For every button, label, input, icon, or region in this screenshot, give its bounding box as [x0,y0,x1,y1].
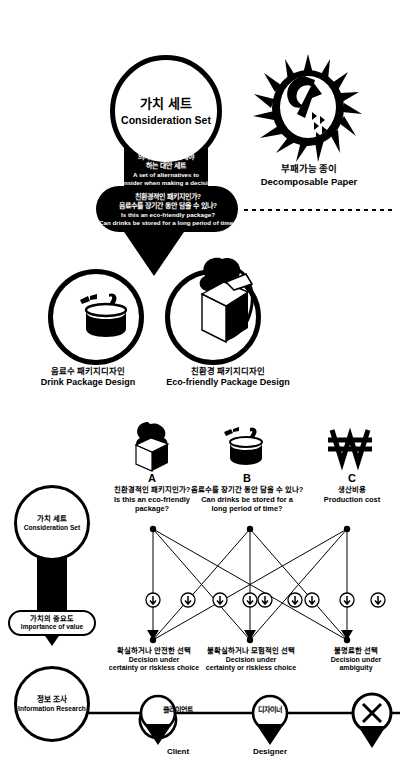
end-x-pin [353,694,391,748]
consideration-set-kr: 가치 세트 [140,96,192,112]
option-c-en-line1: Production cost [306,495,398,504]
outcome-2-en-line2: certainty or riskless choice [192,664,310,673]
information-research-kr: 정보 조사 [37,695,67,705]
option-b-en-line2: long period of time? [186,504,308,513]
option-b-drink-can-icon [222,424,270,468]
outcome-2-en-line1: Decision under [192,656,310,665]
information-research-en: Information Research [18,705,86,714]
sunburst-paper-icon [252,52,364,164]
client-pin-kr: 클라이언트 [140,704,216,714]
designer-label: Designer [232,747,308,756]
question-en-line1: Is this an eco-friendly package? [90,211,246,219]
lower-consideration-set-circle: 가치 세트 Consideration Set [14,485,90,561]
alternatives-kr-line1: 의사결정시 고려해야 [100,152,232,161]
eco-package-kr: 친환경 패키지디자인 [148,366,308,377]
option-a-tree-in-box-icon [128,420,176,472]
alternatives-en-line1: A set of alternatives to [100,171,232,179]
outcome-3-kr: 불명료한 선택 [308,646,404,656]
drink-package-kr: 음료수 패키지디자인 [18,366,158,377]
infographic-canvas: 가치 세트 Consideration Set 의사결정시 고려해야 하는 대안… [0,0,411,766]
option-c-kr: 생산비용 [306,485,398,495]
question-kr-line2: 음료수를 장기간 동안 담을 수 있나? [90,201,246,210]
lower-consideration-kr: 가치 세트 [37,514,67,524]
option-b-kr: 음료수를 장기간 동안 담을 수 있나? [186,485,308,495]
option-c-won-currency-icon [326,424,374,468]
decision-diagram: 가치 세트 Consideration Set 가치의 중요도 Importan… [0,410,411,766]
importance-en: Importance of value [21,623,83,631]
outcome-3-block: 불명료한 선택 Decision under ambiguity [308,646,404,673]
weight-node [146,593,160,607]
outcome-3-en-line1: Decision under [308,656,404,665]
question-en-line2: Can drinks be stored for a long period o… [90,219,246,227]
option-b-letter: B [186,472,308,485]
option-c-letter: C [306,472,398,485]
weight-node-row [100,522,400,647]
decomposable-paper-label: 부패가능 종이 Decomposable Paper [238,163,380,188]
designer-pin-kr: 디자이너 [232,704,308,714]
consideration-set-circle: 가치 세트 Consideration Set [110,55,222,167]
eco-package-label: 친환경 패키지디자인 Eco-friendly Package Design [148,366,308,389]
alternatives-kr-line2: 하는 대안 세트 [100,161,232,170]
lower-consideration-en: Consideration Set [24,524,80,533]
client-label: Client [140,747,216,756]
outcome-2-block: 불확실하거나 모험적인 선택 Decision under certainty … [192,646,310,673]
question-text-block: 친환경적인 패키지인가? 음료수를 장기간 동안 담을 수 있나? Is thi… [90,192,246,227]
option-b-en-line1: Can drinks be stored for a [186,495,308,504]
tree-in-box-icon [190,252,262,344]
option-c-block: C 생산비용 Production cost [306,472,398,504]
eco-package-en: Eco-friendly Package Design [148,377,308,389]
drink-package-label: 음료수 패키지디자인 Drink Package Design [18,366,158,389]
paper-label-en: Decomposable Paper [238,176,380,188]
alternatives-description: 의사결정시 고려해야 하는 대안 세트 A set of alternative… [100,152,232,187]
drink-can-icon [76,288,136,340]
alternatives-en-line2: consider when making a decision [100,179,232,187]
outcome-2-kr: 불확실하거나 모험적인 선택 [192,646,310,656]
outcome-3-en-line2: ambiguity [308,664,404,673]
drink-package-en: Drink Package Design [18,377,158,389]
option-b-block: B 음료수를 장기간 동안 담을 수 있나? Can drinks be sto… [186,472,308,513]
information-research-circle: 정보 조사 Information Research [14,666,90,742]
dotted-connector [242,208,392,212]
importance-of-value-pill: 가치의 중요도 Importance of value [8,610,96,636]
importance-kr: 가치의 중요도 [30,614,74,623]
question-kr-line1: 친환경적인 패키지인가? [90,192,246,201]
consideration-set-en: Consideration Set [121,114,211,127]
paper-label-kr: 부패가능 종이 [238,163,380,176]
